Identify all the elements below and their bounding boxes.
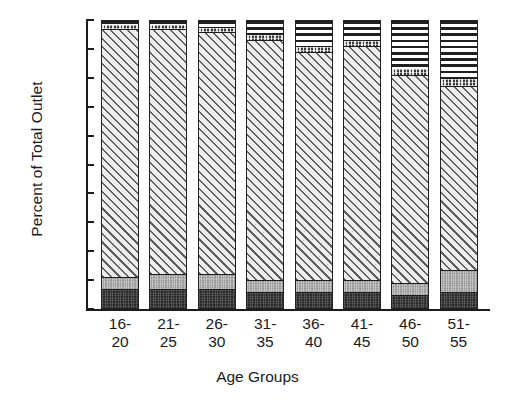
y-tick xyxy=(86,135,94,137)
stacked-bar xyxy=(440,20,478,309)
x-axis-label-line: 51- xyxy=(427,315,491,333)
bar-segment-segment-1-bottom xyxy=(441,293,477,309)
stacked-bar xyxy=(343,20,381,309)
y-tick xyxy=(86,250,94,252)
bar-segment-segment-5-top xyxy=(344,21,380,41)
stacked-bar-chart: Percent of Total Outlet 0102030405060708… xyxy=(0,0,515,412)
bar-segment-segment-4 xyxy=(392,69,428,76)
y-tick xyxy=(86,279,94,281)
bar-segment-segment-3 xyxy=(199,33,235,276)
y-tick xyxy=(86,308,94,310)
bar-segment-segment-1-bottom xyxy=(102,290,138,309)
y-tick xyxy=(86,192,94,194)
y-tick xyxy=(86,77,94,79)
bar-segment-segment-1-bottom xyxy=(247,293,283,309)
bar-segment-segment-3 xyxy=(296,53,332,281)
y-tick xyxy=(86,221,94,223)
stacked-bar xyxy=(149,20,187,309)
bar-segment-segment-1-bottom xyxy=(150,290,186,309)
bar-segment-segment-2 xyxy=(199,275,235,289)
stacked-bar xyxy=(295,20,333,309)
bar-segment-segment-2 xyxy=(296,281,332,293)
bar-segment-segment-2 xyxy=(150,275,186,289)
bar-segment-segment-5-top xyxy=(247,21,283,35)
bar-segment-segment-3 xyxy=(441,87,477,271)
bar-segment-segment-2 xyxy=(247,281,283,293)
y-tick xyxy=(86,48,94,50)
y-tick xyxy=(86,19,94,21)
bar-segment-segment-3 xyxy=(102,30,138,279)
bar-segment-segment-2 xyxy=(102,278,138,290)
bar-segment-segment-1-bottom xyxy=(344,293,380,309)
bar-segment-segment-3 xyxy=(344,47,380,281)
bar-segment-segment-2 xyxy=(392,284,428,296)
bar-segment-segment-5-top xyxy=(441,21,477,79)
bar-segment-segment-3 xyxy=(392,76,428,284)
bar-segment-segment-2 xyxy=(344,281,380,293)
bar-segment-segment-3 xyxy=(150,30,186,276)
stacked-bar xyxy=(101,20,139,309)
x-axis-title: Age Groups xyxy=(0,368,515,386)
y-tick xyxy=(86,106,94,108)
x-axis-line xyxy=(86,309,490,311)
y-tick xyxy=(86,164,94,166)
x-axis-label: 51-55 xyxy=(427,315,491,352)
plot-area: 0102030405060708090100 xyxy=(95,20,490,309)
stacked-bar xyxy=(246,20,284,309)
bar-segment-segment-5-top xyxy=(392,21,428,69)
stacked-bar xyxy=(391,20,429,309)
bar-segment-segment-1-bottom xyxy=(392,296,428,309)
bar-segment-segment-1-bottom xyxy=(199,290,235,309)
bar-segment-segment-5-top xyxy=(296,21,332,47)
bar-segment-segment-3 xyxy=(247,41,283,281)
x-axis-label-line: 55 xyxy=(427,333,491,351)
y-axis-title: Percent of Total Outlet xyxy=(28,44,46,274)
bar-segment-segment-5-top xyxy=(199,21,235,28)
bar-segment-segment-4 xyxy=(441,79,477,88)
bar-segment-segment-2 xyxy=(441,271,477,293)
stacked-bar xyxy=(198,20,236,309)
bar-segment-segment-1-bottom xyxy=(296,293,332,309)
